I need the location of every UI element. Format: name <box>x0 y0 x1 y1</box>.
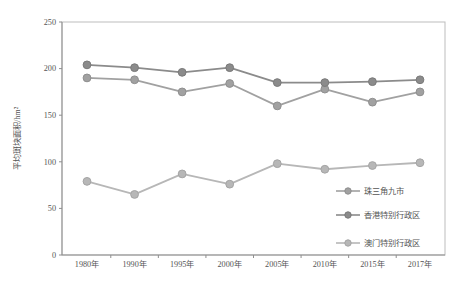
series-point-2 <box>226 180 234 188</box>
y-tick-label: 150 <box>44 111 56 120</box>
y-axis-title: 平均斑块面积/hm² <box>12 106 22 170</box>
series-point-2 <box>321 165 329 173</box>
y-tick-label: 100 <box>44 158 56 167</box>
x-tick-label: 1980年 <box>75 259 99 269</box>
series-point-2 <box>273 160 281 168</box>
legend-label-0: 珠三角九市 <box>364 186 404 196</box>
series-point-0 <box>83 74 91 82</box>
series-point-1 <box>178 68 186 76</box>
series-point-1 <box>321 79 329 87</box>
chart-figure: 0501001502002501980年1990年1995年2000年2005年… <box>0 0 462 291</box>
y-tick-label: 50 <box>48 204 56 213</box>
chart-svg: 0501001502002501980年1990年1995年2000年2005年… <box>0 0 462 291</box>
series-point-1 <box>273 79 281 87</box>
legend-label-1: 香港特别行政区 <box>364 210 420 220</box>
series-point-2 <box>83 177 91 185</box>
legend-marker-dot-icon <box>345 240 351 246</box>
legend-marker-dot-icon <box>345 188 351 194</box>
legend-marker-dot-icon <box>345 212 351 218</box>
legend-label-2: 澳门特别行政区 <box>364 238 420 248</box>
x-tick-label: 1995年 <box>170 259 194 269</box>
x-tick-label: 1990年 <box>122 259 146 269</box>
series-point-1 <box>226 64 234 72</box>
series-point-0 <box>416 88 424 96</box>
y-tick-label: 250 <box>44 18 56 27</box>
x-tick-label: 2005年 <box>265 259 289 269</box>
x-tick-label: 2015年 <box>360 259 384 269</box>
series-point-0 <box>226 80 234 88</box>
series-point-1 <box>131 64 139 72</box>
series-point-0 <box>273 102 281 110</box>
series-point-1 <box>83 61 91 69</box>
y-tick-label: 200 <box>44 64 56 73</box>
series-point-2 <box>416 159 424 167</box>
series-point-0 <box>178 88 186 96</box>
series-point-2 <box>369 162 377 170</box>
x-tick-label: 2000年 <box>218 259 242 269</box>
plot-border <box>62 22 445 255</box>
x-tick-label: 2017年 <box>408 259 432 269</box>
series-point-2 <box>178 170 186 178</box>
y-tick-label: 0 <box>52 251 56 260</box>
series-point-1 <box>369 78 377 86</box>
series-point-0 <box>369 98 377 106</box>
x-tick-label: 2010年 <box>313 259 337 269</box>
series-point-1 <box>416 76 424 84</box>
series-point-2 <box>131 191 139 199</box>
series-point-0 <box>131 76 139 84</box>
